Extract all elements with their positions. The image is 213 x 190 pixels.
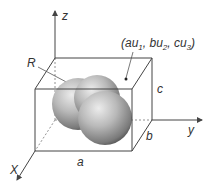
dimension-b-label: b [146,129,153,143]
dimension-a-label: a [77,155,84,169]
y-axis-label: y [187,123,195,137]
dimension-c-label: c [157,82,163,96]
sphere-front [78,91,132,145]
point-leader-line [126,52,133,78]
z-axis-label: z [61,9,68,23]
radius-label: R [27,56,36,70]
x-axis-label: X [9,163,19,177]
point-coordinates-label: (au1, bu2, cu3) [121,36,195,52]
x-axis [17,151,35,180]
diagram-canvas: z y X a b c R (au1, bu2, cu3) [0,0,213,190]
spheres [52,75,132,145]
point-marker [125,78,128,81]
box-spheres-diagram: z y X a b c R (au1, bu2, cu3) [0,0,213,190]
